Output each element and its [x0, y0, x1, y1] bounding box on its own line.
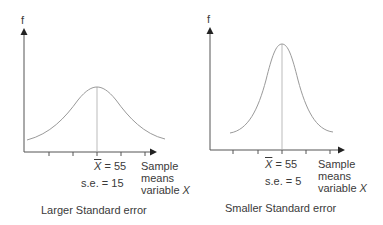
- right-y-axis-arrow-icon: [207, 27, 214, 34]
- right-x-axis-label-var: X: [360, 182, 367, 194]
- left-chart: [21, 28, 166, 156]
- right-normal-curve: [230, 44, 333, 133]
- left-x-axis-label-prefix: variable: [141, 184, 183, 196]
- left-y-axis-label: f: [21, 14, 24, 27]
- right-x-axis-label-prefix: variable: [318, 182, 360, 194]
- right-x-axis-arrow-icon: [338, 147, 345, 154]
- left-x-ticks: [49, 152, 145, 156]
- left-normal-curve: [27, 87, 165, 140]
- right-chart: [207, 27, 346, 154]
- right-mean-label: X = 55: [265, 158, 297, 171]
- left-se-label: s.e. = 15: [81, 177, 124, 190]
- left-mean-label: X = 55: [94, 160, 126, 173]
- right-x-axis-label-line3: variable X: [318, 182, 367, 195]
- right-x-ticks: [233, 150, 330, 154]
- left-y-axis-arrow-icon: [21, 28, 28, 35]
- right-mean-value: = 55: [272, 158, 297, 170]
- left-x-axis-arrow-icon: [150, 149, 157, 156]
- left-x-axis-label-line3: variable X: [141, 184, 190, 197]
- left-x-axis-label-var: X: [183, 184, 190, 196]
- left-mean-value: = 55: [101, 160, 126, 172]
- right-se-label: s.e. = 5: [265, 175, 301, 188]
- right-caption: Smaller Standard error: [225, 202, 336, 214]
- left-caption: Larger Standard error: [41, 204, 147, 216]
- right-y-axis-label: f: [207, 13, 210, 26]
